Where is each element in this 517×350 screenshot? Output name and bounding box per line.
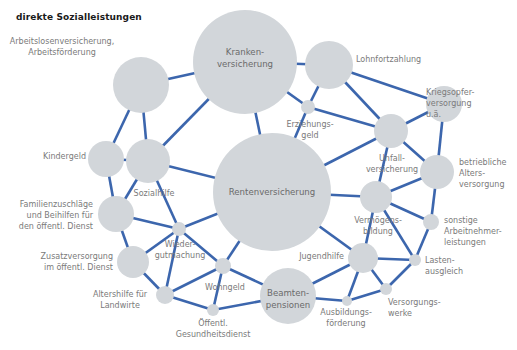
label-jugend: Jugendhilfe [298,252,344,261]
label-rente: Rentenversicherung [229,187,316,197]
label-sonstige: sonstigeArbeitnehmer-leistungen [444,216,502,247]
label-versorgung: Versorgungs-werke [388,298,441,318]
node-lohn [305,41,353,89]
node-betrieblich [420,155,454,189]
edge-ausbildung-versorgung [347,289,386,301]
node-zusatz [117,246,149,278]
label-arbeitslos: Arbeitslosenversicherung,Arbeitsförderun… [10,37,114,57]
node-vermoegen [360,181,392,213]
label-erziehung: Erziehungs-geld [286,120,333,140]
node-familien [98,196,134,232]
label-sozialhilfe: Sozialhilfe [134,189,175,198]
label-lasten: Lasten-ausgleich [425,256,463,276]
node-sozialhilfe [126,139,170,183]
node-versorgung [380,283,392,295]
edge-lasten-versorgung [386,260,415,289]
network-diagram: Kranken-versicherungArbeitslosenversiche… [0,0,517,350]
node-erziehung [301,100,315,114]
node-sonstige [423,214,439,230]
label-wohngeld: Wohngeld [205,283,245,292]
node-arbeitslos [113,57,169,113]
node-gesundheit [207,304,219,316]
label-unfall: Unfall-versicherung [366,154,418,174]
label-gesundheit: Öffentl.Gesundheitsdienst [176,318,251,339]
node-kindergeld [88,141,124,177]
label-lohn: Lohnfortzahlung [356,55,421,64]
node-lasten [409,254,421,266]
node-altershilfe [156,286,174,304]
label-wieder: Wieder-gutmachung [155,240,206,260]
label-familien: Familienzuschlägeund Beihilfen fürden öf… [19,200,94,231]
node-ausbildung [342,296,352,306]
label-zusatz: Zusatzversorgungim öffentl. Dienst [41,252,113,272]
node-unfall [374,114,408,148]
label-altershilfe: Altershilfe fürLandwirte [93,290,148,310]
label-kindergeld: Kindergeld [43,152,86,161]
label-betrieblich: betrieblicheAlters-versorgung [459,158,507,189]
node-jugend [348,243,378,273]
node-wohngeld [215,258,231,274]
node-wieder [172,222,186,236]
label-ausbildung: Ausbildungs-förderung [320,308,372,328]
